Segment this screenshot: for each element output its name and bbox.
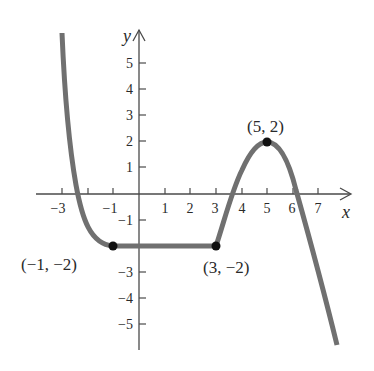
x-ticks — [62, 188, 318, 194]
function-graph: −3 −1 1 2 3 4 5 6 7 x 5 4 3 2 1 −1 − — [0, 0, 374, 371]
point-marker — [212, 242, 221, 251]
y-tick-label: 1 — [126, 160, 133, 175]
y-tick-label: 5 — [126, 56, 133, 71]
y-tick-label: −4 — [118, 291, 133, 306]
x-tick-label: 1 — [162, 201, 169, 216]
y-tick-label: −5 — [118, 317, 133, 332]
x-tick-label: −3 — [51, 201, 66, 216]
y-tick-label: 2 — [126, 134, 133, 149]
function-curve — [62, 33, 337, 345]
x-tick-label: 5 — [264, 201, 271, 216]
x-axis-label: x — [341, 202, 350, 222]
x-tick-label: 7 — [315, 201, 322, 216]
x-tick-label: −1 — [103, 201, 118, 216]
point-label-neg1-neg2: (−1, −2) — [21, 255, 77, 274]
y-tick-label: 3 — [126, 108, 133, 123]
point-label-5-2: (5, 2) — [247, 117, 284, 136]
point-marker — [263, 138, 272, 147]
x-tick-label: 3 — [212, 201, 219, 216]
x-tick-label: 2 — [187, 201, 194, 216]
x-tick-label: 4 — [239, 201, 246, 216]
point-marker — [109, 242, 118, 251]
y-tick-label: 4 — [126, 82, 133, 97]
y-tick-label: −3 — [118, 265, 133, 280]
point-label-3-neg2: (3, −2) — [203, 258, 249, 277]
y-axis: 5 4 3 2 1 −1 −3 −4 −5 y — [118, 26, 146, 350]
x-tick-label: 6 — [289, 201, 296, 216]
y-tick-label: −1 — [118, 213, 133, 228]
y-axis-label: y — [121, 26, 131, 46]
